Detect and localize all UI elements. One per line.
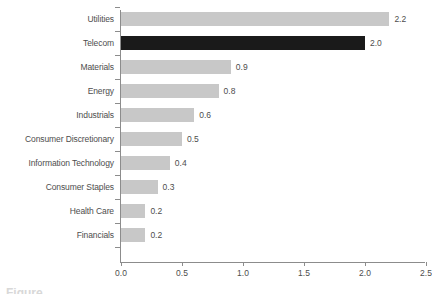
x-axis-tick-label: 1.0 [237, 268, 249, 278]
y-axis-tick [115, 223, 120, 224]
x-axis-tick [182, 262, 183, 266]
bar [121, 108, 194, 122]
bar-highlighted [121, 36, 365, 50]
bar-value-label: 0.2 [150, 230, 162, 240]
bar-row: Energy0.8 [0, 79, 429, 103]
x-axis-tick [426, 262, 427, 266]
y-axis-tick [115, 247, 120, 248]
bar-value-label: 0.6 [199, 110, 211, 120]
bar [121, 204, 145, 218]
y-axis-tick [115, 79, 120, 80]
bar-row: Industrials0.6 [0, 103, 429, 127]
bar-value-label: 0.4 [175, 158, 187, 168]
bar [121, 156, 170, 170]
category-label: Energy [88, 86, 114, 96]
bar-value-label: 2.0 [370, 38, 382, 48]
bar [121, 12, 389, 26]
category-label: Utilities [88, 14, 115, 24]
y-axis-tick [115, 199, 120, 200]
x-axis-tick [365, 262, 366, 266]
category-label: Health Care [70, 206, 114, 216]
y-axis-tick [115, 31, 120, 32]
bar-value-label: 0.8 [224, 86, 236, 96]
bar-row: Financials0.2 [0, 223, 429, 247]
cut-off-caption: Figure [6, 286, 206, 294]
bar-row: Consumer Staples0.3 [0, 175, 429, 199]
x-axis-tick-label: 0.0 [115, 268, 127, 278]
x-axis-tick [243, 262, 244, 266]
bar-value-label: 0.9 [236, 62, 248, 72]
category-label: Industrials [76, 110, 114, 120]
y-axis-tick [115, 127, 120, 128]
bar [121, 84, 219, 98]
category-label: Information Technology [28, 158, 114, 168]
bar-value-label: 0.3 [163, 182, 175, 192]
bar [121, 132, 182, 146]
bar-row: Telecom2.0 [0, 31, 429, 55]
bar-row: Information Technology0.4 [0, 151, 429, 175]
category-label: Financials [77, 230, 114, 240]
category-label: Consumer Staples [46, 182, 114, 192]
bar-value-label: 0.2 [150, 206, 162, 216]
category-label: Telecom [83, 38, 114, 48]
bar [121, 60, 231, 74]
x-axis-tick-label: 0.5 [176, 268, 188, 278]
bar-row: Health Care0.2 [0, 199, 429, 223]
y-axis-tick [115, 175, 120, 176]
bar [121, 180, 158, 194]
bar-value-label: 0.5 [187, 134, 199, 144]
x-axis-line [120, 262, 425, 263]
x-axis-tick-label: 2.0 [359, 268, 371, 278]
bar-row: Consumer Discretionary0.5 [0, 127, 429, 151]
x-axis-tick [304, 262, 305, 266]
y-axis-tick [115, 7, 120, 8]
y-axis-tick [115, 55, 120, 56]
bar-row: Materials0.9 [0, 55, 429, 79]
category-label: Consumer Discretionary [25, 134, 114, 144]
bar-row: Utilities2.2 [0, 7, 429, 31]
x-axis-tick-label: 1.5 [298, 268, 310, 278]
x-axis-tick [121, 262, 122, 266]
y-axis-tick [115, 103, 120, 104]
bar [121, 228, 145, 242]
x-axis-tick-label: 2.5 [420, 268, 432, 278]
y-axis-tick [115, 151, 120, 152]
category-label: Materials [80, 62, 114, 72]
bar-value-label: 2.2 [394, 14, 406, 24]
